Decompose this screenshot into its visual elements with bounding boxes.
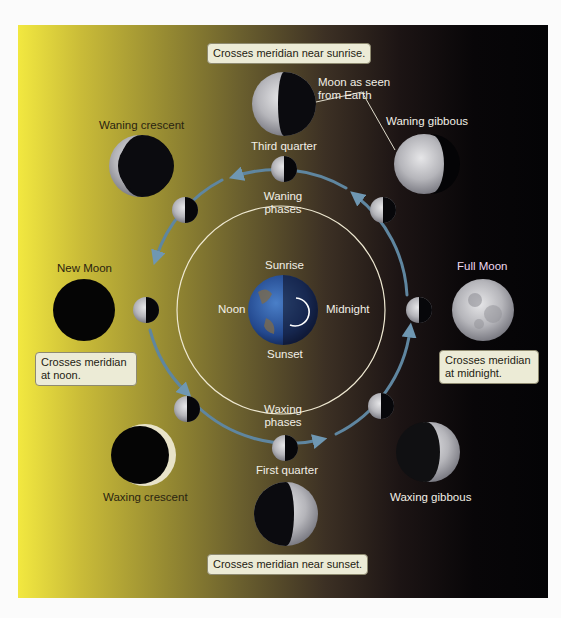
label-waning-crescent: Waning crescent — [99, 119, 184, 132]
label-first-quarter: First quarter — [256, 464, 318, 477]
label-sunset: Sunset — [267, 348, 303, 361]
moon-as-seen-annotation: Moon as seen from Earth — [318, 76, 408, 102]
first-quarter-moon-icon — [254, 482, 318, 546]
label-waxing-crescent: Waxing crescent — [103, 491, 188, 504]
earth-icon — [248, 275, 318, 345]
label-third-quarter: Third quarter — [251, 140, 317, 153]
label-sunrise: Sunrise — [265, 259, 304, 272]
label-waxing-gibbous: Waxing gibbous — [390, 491, 471, 504]
label-waxing-phases: Waxing phases — [253, 403, 313, 429]
full-moon-icon — [452, 279, 514, 341]
label-waning-phases: Waning phases — [253, 190, 313, 216]
label-new-moon: New Moon — [57, 262, 112, 275]
callout-left: Crosses meridian at noon. — [35, 352, 137, 386]
label-midnight: Midnight — [326, 303, 369, 316]
new-moon-icon — [53, 279, 115, 341]
waxing-crescent-moon-icon — [111, 424, 176, 486]
callout-right: Crosses meridian at midnight. — [439, 350, 539, 384]
callout-bottom: Crosses meridian near sunset. — [207, 554, 368, 575]
label-full-moon: Full Moon — [457, 260, 508, 273]
label-waning-gibbous: Waning gibbous — [386, 115, 468, 128]
waxing-gibbous-moon-icon — [396, 422, 460, 482]
label-noon: Noon — [218, 303, 246, 316]
waning-crescent-moon-icon — [109, 135, 174, 197]
moon-phase-diagram — [0, 0, 561, 618]
waning-gibbous-moon-icon — [394, 134, 460, 194]
third-quarter-moon-icon — [252, 72, 316, 136]
callout-top: Crosses meridian near sunrise. — [207, 43, 371, 64]
